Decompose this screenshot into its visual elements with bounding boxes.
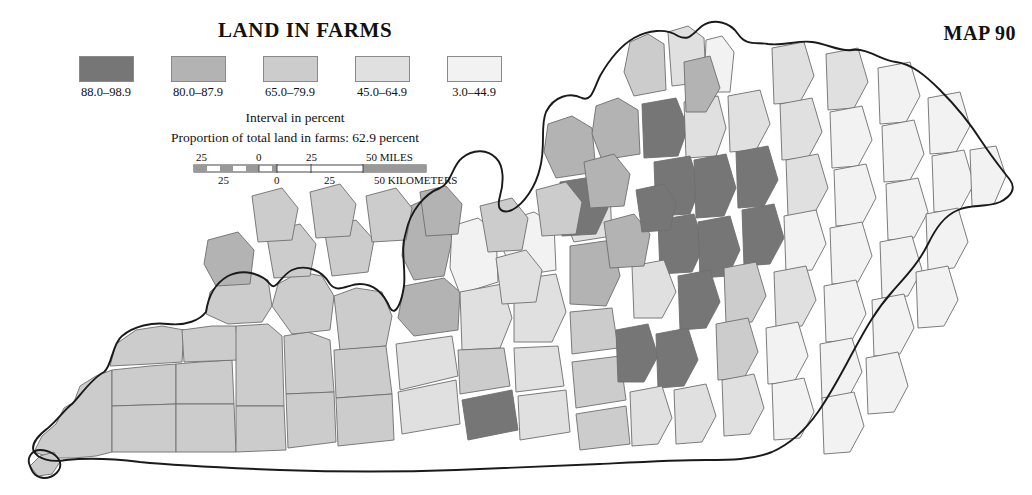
county-c87 [420, 186, 462, 236]
legend-label-1: 88.0–98.9 [60, 85, 152, 100]
county-c77 [872, 294, 914, 356]
county-c75 [886, 178, 928, 240]
legend-caption: Interval in percent [0, 110, 590, 126]
county-c80 [932, 150, 974, 212]
legend-swatch-5 [447, 56, 502, 82]
county-c06 [176, 404, 236, 452]
map-page: LAND IN FARMS MAP 90 88.0–98.980.0–87.96… [0, 0, 1032, 495]
county-c54 [736, 146, 778, 208]
legend-label-3: 65.0–79.9 [244, 85, 336, 100]
county-c04 [112, 404, 176, 452]
county-c63 [774, 266, 816, 328]
county-c72 [822, 392, 864, 454]
county-c48 [678, 270, 720, 330]
county-c58 [722, 374, 764, 436]
legend-item-1: 88.0–98.9 [60, 56, 152, 100]
county-c24 [458, 348, 510, 394]
county-c82 [916, 266, 958, 328]
legend-swatch-4 [355, 56, 410, 82]
county-c44 [694, 154, 736, 218]
county-c95 [310, 184, 356, 238]
legend-item-2: 80.0–87.9 [152, 56, 244, 100]
county-c61 [786, 154, 828, 216]
county-c67 [830, 106, 872, 168]
county-c90 [584, 154, 630, 208]
county-c59 [772, 42, 814, 104]
county-c08 [182, 326, 238, 362]
county-c70 [824, 280, 866, 342]
county-c34 [576, 406, 630, 450]
legend-label-5: 3.0–44.9 [428, 85, 520, 100]
county-c55 [742, 204, 784, 266]
county-c12 [284, 332, 334, 394]
legend: 88.0–98.980.0–87.965.0–79.945.0–64.93.0–… [60, 56, 530, 102]
county-c78 [866, 352, 908, 414]
scale-miles-label-1: 25 [196, 151, 207, 163]
county-c13 [286, 392, 336, 448]
legend-swatch-1 [79, 56, 134, 82]
county-c09 [236, 324, 284, 406]
county-c10 [236, 406, 286, 452]
county-c36 [592, 98, 640, 160]
scale-miles-label-4: 50 MILES [366, 151, 413, 163]
county-c64 [766, 322, 808, 384]
legend-item-4: 45.0–64.9 [336, 56, 428, 100]
county-c60 [780, 98, 822, 160]
county-c57 [716, 318, 758, 380]
legend-swatch-2 [171, 56, 226, 82]
county-c84 [204, 232, 254, 286]
county-c76 [880, 236, 922, 298]
legend-label-4: 45.0–64.9 [336, 85, 428, 100]
county-c50 [656, 328, 698, 388]
scale-km-label-1: 25 [218, 174, 229, 186]
scale-km-label-2: 0 [274, 174, 280, 186]
county-c16 [334, 346, 392, 398]
county-c25 [462, 390, 518, 440]
county-c03 [112, 364, 176, 406]
county-c49 [616, 324, 658, 382]
county-c88 [480, 198, 528, 252]
county-c73 [878, 62, 920, 124]
legend-item-5: 3.0–44.9 [428, 56, 520, 100]
county-c62 [784, 210, 826, 272]
county-c29 [518, 390, 570, 440]
county-c53 [728, 90, 770, 152]
legend-item-3: 65.0–79.9 [244, 56, 336, 100]
county-c69 [830, 222, 872, 284]
county-c68 [834, 164, 876, 226]
legend-label-2: 80.0–87.9 [152, 85, 244, 100]
county-c14 [272, 272, 334, 334]
scale-km-label-4: 50 KILOMETERS [374, 174, 457, 186]
county-c79 [928, 92, 970, 154]
county-c38 [624, 34, 666, 96]
county-c07 [110, 326, 184, 366]
county-c52 [674, 384, 716, 444]
scale-miles-label-3: 25 [306, 151, 317, 163]
scale-miles-label-2: 0 [256, 151, 262, 163]
county-c41 [642, 98, 688, 158]
county-c83 [970, 146, 1006, 206]
scale-km-label-3: 25 [324, 174, 335, 186]
legend-swatch-3 [263, 56, 318, 82]
county-c65 [772, 378, 814, 440]
county-c32 [570, 308, 618, 354]
county-c56 [724, 262, 766, 324]
county-c74 [882, 120, 924, 182]
county-c94 [252, 188, 298, 242]
county-c05 [176, 360, 234, 404]
county-c28 [514, 346, 564, 392]
county-c19 [398, 278, 460, 336]
legend-subcaption: Proportion of total land in farms: 62.9 … [0, 130, 590, 146]
scale-bar: 2502550 MILES2502550 KILOMETERS [188, 152, 438, 192]
county-c66 [826, 48, 868, 110]
county-c17 [336, 394, 394, 446]
county-c01 [34, 370, 112, 458]
county-c51 [630, 386, 672, 446]
